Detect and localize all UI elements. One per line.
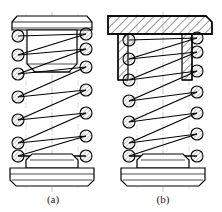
figure-canvas: (a) [0, 0, 222, 212]
base-plate-b [121, 168, 205, 186]
sectioned-cap-b [108, 16, 212, 34]
base-boss-b [137, 154, 189, 168]
panel-a-caption: (a) [47, 193, 60, 206]
spring-assembly-figure: (a) [0, 0, 222, 212]
base-boss-a [26, 154, 78, 168]
top-plate-a [12, 16, 92, 30]
panel-b-caption: (b) [157, 193, 170, 206]
base-plate-a [10, 168, 94, 186]
tapered-plug-a [27, 30, 77, 72]
